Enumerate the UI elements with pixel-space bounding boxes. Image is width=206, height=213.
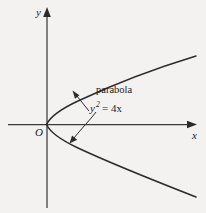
- equation-remainder: = 4x: [102, 102, 122, 114]
- origin-label: O: [35, 126, 43, 138]
- equation-label: y 2 = 4x: [89, 100, 122, 114]
- y-axis: [43, 7, 51, 208]
- lower-leader-arrow: [70, 112, 97, 144]
- x-axis-label: x: [191, 129, 197, 141]
- equation-variable: y: [89, 102, 95, 114]
- x-axis-arrowhead: [187, 121, 197, 128]
- lower-leader-arrowhead: [70, 136, 78, 144]
- parabola-label: parabola: [96, 84, 132, 95]
- lower-leader-line: [74, 112, 97, 139]
- parabola-curve: [47, 56, 197, 197]
- y-axis-arrowhead: [43, 7, 51, 17]
- parabola-lower-branch: [47, 125, 197, 198]
- equation-exponent: 2: [96, 100, 100, 109]
- figure-canvas: y x O parabola y 2 = 4x: [0, 0, 206, 213]
- upper-leader-line: [77, 96, 90, 112]
- parabola-diagram: y x O parabola y 2 = 4x: [0, 0, 206, 213]
- upper-leader-arrow: [73, 91, 90, 112]
- y-axis-label: y: [35, 6, 41, 18]
